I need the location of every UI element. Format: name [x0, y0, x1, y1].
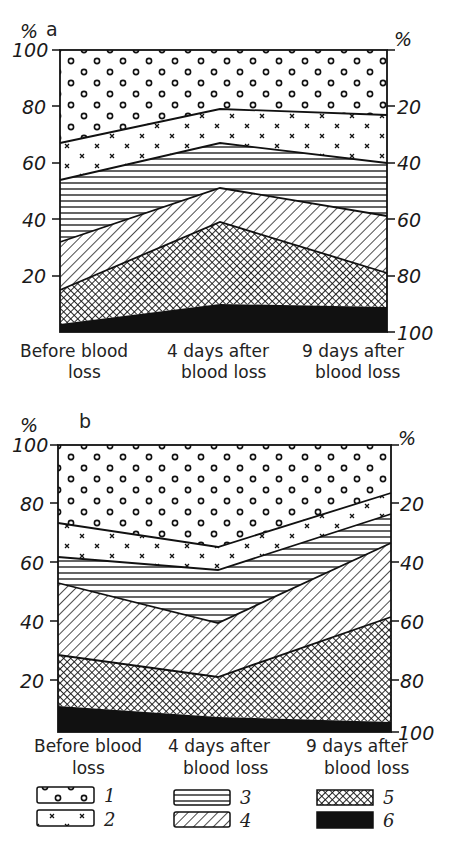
- x-label-a: blood loss: [181, 362, 266, 382]
- x-label-b: 4 days after: [168, 736, 270, 756]
- legend-label-2: 2: [103, 809, 115, 830]
- x-label-b: blood loss: [183, 758, 268, 778]
- y-tick-right-a: 20: [397, 96, 421, 118]
- y-axis-unit-right-b: %: [398, 427, 416, 449]
- chart-b: % b % 100 80 60 40 20 20 40 60: [12, 410, 434, 778]
- panel-label-a: a: [46, 18, 58, 40]
- legend-swatch-6: [317, 812, 373, 828]
- legend-label-1: 1: [104, 785, 115, 806]
- y-tick-left-a: 40: [22, 209, 46, 231]
- y-tick-right-a: 60: [397, 209, 421, 231]
- y-tick-left-b: 40: [20, 611, 44, 633]
- y-tick-left-b: 20: [20, 670, 44, 692]
- y-tick-right-a: 40: [397, 152, 421, 174]
- x-label-a: Before blood: [20, 341, 128, 361]
- y-tick-left-a: 80: [22, 96, 46, 118]
- x-label-b: Before blood: [34, 736, 142, 756]
- y-tick-right-b: 80: [400, 670, 424, 692]
- legend-label-3: 3: [240, 787, 251, 808]
- y-tick-left-b: 80: [20, 493, 44, 515]
- y-axis-unit-left-b: %: [20, 414, 38, 436]
- x-label-b: loss: [72, 758, 105, 778]
- legend: 1 2 3 4 5 6: [37, 785, 394, 831]
- legend-swatch-5: [317, 790, 373, 805]
- legend-swatch-1: [37, 787, 94, 803]
- x-label-a: blood loss: [315, 362, 400, 382]
- legend-label-5: 5: [383, 787, 394, 808]
- x-label-b: 9 days after: [306, 736, 408, 756]
- legend-swatch-2: [37, 810, 94, 826]
- y-tick-right-b: 40: [400, 552, 424, 574]
- figure: % a % 100 80: [0, 0, 450, 853]
- legend-label-4: 4: [239, 810, 251, 831]
- chart-a: % a % 100 80: [12, 18, 433, 382]
- y-tick-right-b: 60: [400, 611, 424, 633]
- y-tick-right-b: 20: [400, 493, 424, 515]
- legend-swatch-3: [174, 790, 230, 805]
- y-tick-left-b: 60: [20, 552, 44, 574]
- panel-label-b: b: [79, 410, 91, 432]
- legend-label-6: 6: [383, 810, 394, 831]
- x-label-a: 4 days after: [167, 341, 269, 361]
- x-label-b: blood loss: [324, 758, 409, 778]
- y-axis-unit-right-a: %: [394, 28, 412, 50]
- y-tick-left-a: 20: [22, 265, 46, 287]
- y-tick-left-a: 100: [12, 39, 48, 61]
- y-tick-left-b: 100: [12, 434, 48, 456]
- x-label-a: loss: [68, 362, 101, 382]
- y-tick-right-a: 80: [397, 265, 421, 287]
- y-tick-left-a: 60: [22, 152, 46, 174]
- legend-swatch-4: [174, 812, 230, 827]
- x-label-a: 9 days after: [302, 341, 404, 361]
